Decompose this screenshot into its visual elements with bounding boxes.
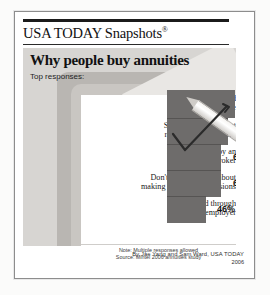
subtitle: Top responses:	[30, 72, 84, 81]
notes-divider	[81, 244, 236, 245]
bar-value-3: 64%	[233, 178, 236, 188]
usa-today-snapshots-logo: USA TODAY Snapshots®	[23, 25, 168, 42]
bar-4	[167, 196, 206, 223]
bar-3	[167, 170, 221, 197]
logo-text: USA TODAY Snapshots	[23, 25, 162, 41]
chart-panel: Why people buy annuities Top responses: …	[23, 48, 236, 246]
logo-underline	[23, 44, 229, 45]
page-title: Why people buy annuities	[30, 52, 189, 69]
byline-year: 2006	[38, 259, 244, 265]
top-rule	[23, 19, 229, 22]
byline: By Jae Yang and Sam Ward, USA TODAY 2006	[38, 251, 244, 265]
bar-value-4: 46%	[217, 204, 235, 214]
checkmark-icon	[169, 100, 236, 160]
snapshot-graphic: USA TODAY Snapshots® Why people buy annu…	[0, 0, 270, 295]
registered-mark-icon: ®	[162, 25, 168, 34]
graphic-content: USA TODAY Snapshots® Why people buy annu…	[23, 19, 244, 269]
graphic-frame: USA TODAY Snapshots® Why people buy annu…	[14, 11, 255, 279]
byline-credit: By Jae Yang and Sam Ward, USA TODAY	[38, 251, 244, 257]
